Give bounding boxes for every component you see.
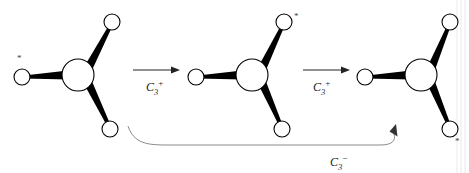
- page-edge-rules: [457, 0, 465, 173]
- central-atom: [236, 59, 268, 91]
- bond-left: [367, 71, 411, 80]
- molecule-2: *: [188, 11, 299, 137]
- operation-arrow-2: C3+: [303, 67, 350, 97]
- arrow-head: [341, 67, 350, 74]
- operation-subscript: 3: [337, 162, 342, 172]
- operation-subscript: 3: [320, 87, 325, 97]
- bond-left: [198, 71, 242, 80]
- central-atom: [405, 59, 437, 91]
- curved-arrow-head: [390, 124, 398, 137]
- asterisk-marker: *: [294, 11, 299, 21]
- molecule-1: *: [14, 14, 120, 137]
- asterisk-marker: *: [17, 53, 22, 63]
- ligand-lower-right: [442, 121, 458, 137]
- ligand-upper-right: [104, 14, 120, 30]
- operation-subscript: 3: [153, 87, 158, 97]
- operation-superscript: +: [158, 78, 163, 88]
- ligand-upper-right: [276, 14, 292, 30]
- operation-label-3: C3−: [330, 153, 347, 172]
- ligand-upper-right: [442, 14, 458, 30]
- arrow-head: [171, 67, 180, 74]
- bond-left: [24, 71, 68, 80]
- ligand-lower-right: [102, 121, 118, 137]
- molecule-3: *: [357, 14, 460, 146]
- c3-rotation-diagram: * C3+ * C3+: [0, 0, 469, 173]
- operation-superscript: −: [342, 153, 347, 163]
- curved-arrow-shaft: [128, 126, 394, 145]
- ligand-left: [188, 69, 204, 85]
- asterisk-marker: *: [455, 136, 460, 146]
- operation-superscript: +: [325, 78, 330, 88]
- ligand-left: [357, 69, 373, 85]
- ligand-lower-right: [274, 121, 290, 137]
- operation-label-1: C3+: [146, 78, 163, 97]
- diagram-canvas: * C3+ * C3+: [0, 0, 469, 173]
- operation-arrow-1: C3+: [133, 67, 180, 97]
- ligand-left: [14, 69, 30, 85]
- operation-arrow-3: C3−: [128, 124, 398, 172]
- central-atom: [62, 59, 94, 91]
- operation-label-2: C3+: [313, 78, 330, 97]
